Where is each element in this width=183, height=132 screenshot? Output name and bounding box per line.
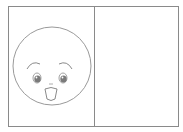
open-mouth (45, 88, 57, 101)
right-eye-highlight (62, 77, 64, 79)
left-eye-highlight (36, 77, 38, 79)
right-pupil (60, 75, 66, 82)
left-pupil (34, 75, 40, 82)
right-eyebrow (59, 63, 72, 69)
left-eyebrow (27, 63, 40, 69)
left-panel (13, 27, 91, 105)
smiling-face-icon (13, 27, 91, 105)
outer-frame (9, 7, 179, 127)
diagram-canvas (0, 0, 183, 132)
